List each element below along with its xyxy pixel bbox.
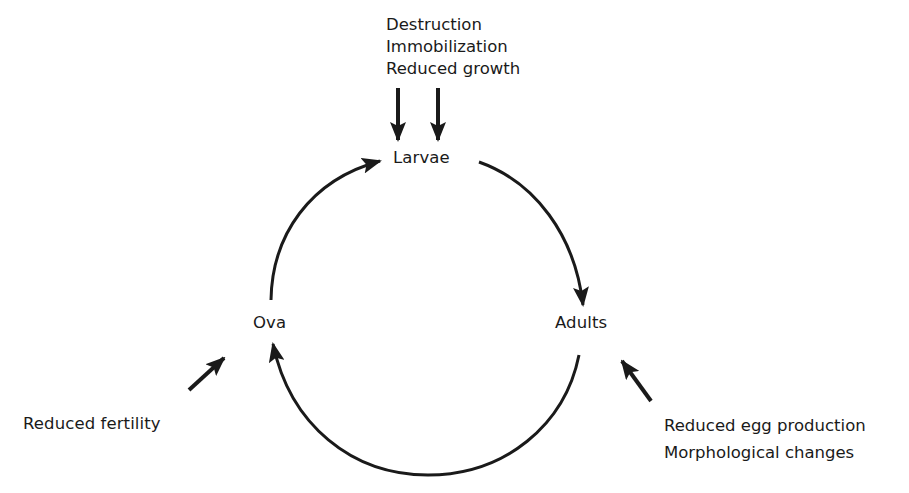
larvae-effect-destruction: Destruction [386, 14, 520, 36]
larvae-effects-list: Destruction Immobilization Reduced growt… [386, 14, 520, 80]
stage-adults-label: Adults [555, 315, 607, 332]
larvae-effect-reduced-growth: Reduced growth [386, 58, 520, 80]
larvae-effect-immobilization: Immobilization [386, 36, 520, 58]
stage-larvae-label: Larvae [393, 150, 450, 167]
effect-arrow-adults [622, 361, 651, 401]
adults-effect-morphological-changes: Morphological changes [664, 439, 866, 466]
effect-arrow-ova [189, 358, 224, 390]
arrow-ova-to-larvae [271, 161, 380, 300]
arrow-larvae-to-adults [479, 162, 583, 305]
adults-effects-list: Reduced egg production Morphological cha… [664, 412, 866, 466]
ova-effect-reduced-fertility: Reduced fertility [23, 416, 161, 433]
adults-effect-reduced-egg-production: Reduced egg production [664, 412, 866, 439]
arrow-adults-to-ova [273, 344, 579, 475]
stage-ova-label: Ova [253, 315, 286, 332]
